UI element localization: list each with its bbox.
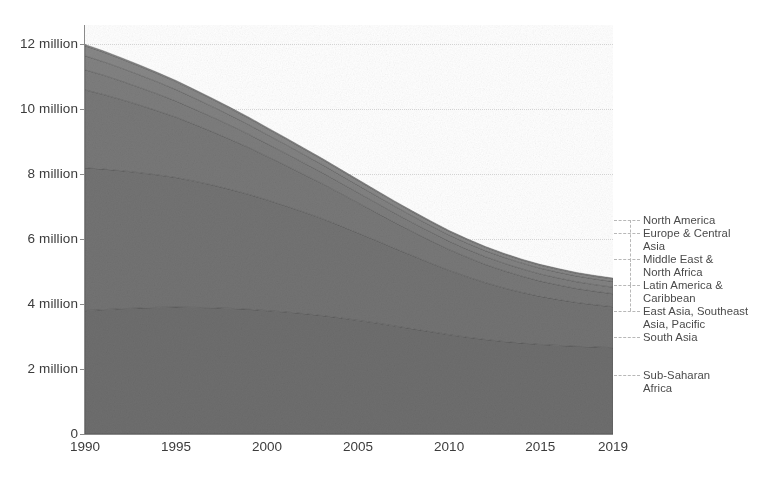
y-axis-tick-mark [80, 44, 85, 45]
y-axis-tick-mark [80, 304, 85, 305]
y-axis-tick-label: 4 million [28, 297, 78, 311]
legend-leader-line [614, 220, 640, 221]
y-axis-tick-label: 10 million [20, 102, 78, 116]
x-axis-tick-label: 2015 [525, 440, 555, 454]
y-axis-tick-label: 12 million [20, 37, 78, 51]
legend-label[interactable]: Europe & Central Asia [643, 227, 730, 253]
y-axis-tick-mark [80, 434, 85, 435]
legend-leader-line [614, 311, 640, 312]
y-axis-tick-label: 2 million [28, 362, 78, 376]
legend-leader-line [614, 285, 640, 286]
y-axis-tick-mark [80, 174, 85, 175]
legend-label[interactable]: Middle East & North Africa [643, 253, 713, 279]
stacked-area-chart: 02 million4 million6 million8 million10 … [0, 0, 766, 478]
x-axis-tick-label: 2005 [343, 440, 373, 454]
legend-leader-line [614, 259, 640, 260]
legend-leader-line [614, 337, 640, 338]
legend-label[interactable]: North America [643, 214, 715, 227]
legend-label[interactable]: East Asia, Southeast Asia, Pacific [643, 305, 748, 331]
legend-leader-connector [630, 285, 631, 311]
y-axis-tick-label: 8 million [28, 167, 78, 181]
legend-label[interactable]: Sub-Saharan Africa [643, 369, 710, 395]
x-axis-tick-label: 1995 [161, 440, 191, 454]
x-axis-line [84, 434, 613, 435]
x-axis-tick-label: 2010 [434, 440, 464, 454]
legend-leader-line [614, 375, 640, 376]
legend-label[interactable]: South Asia [643, 331, 698, 344]
legend: North AmericaEurope & Central AsiaMiddle… [612, 0, 766, 478]
y-axis-line [84, 25, 85, 435]
stacked-area-series [85, 25, 613, 434]
legend-leader-line [614, 233, 640, 234]
x-axis-tick-label: 1990 [70, 440, 100, 454]
plot-area [85, 25, 613, 434]
y-axis-tick-label: 6 million [28, 232, 78, 246]
y-axis-tick-mark [80, 239, 85, 240]
y-axis-tick-mark [80, 109, 85, 110]
y-axis-tick-mark [80, 369, 85, 370]
y-axis-tick-labels: 02 million4 million6 million8 million10 … [0, 0, 78, 478]
x-axis-tick-label: 2000 [252, 440, 282, 454]
legend-label[interactable]: Latin America & Caribbean [643, 279, 723, 305]
legend-leader-connector [630, 259, 631, 285]
